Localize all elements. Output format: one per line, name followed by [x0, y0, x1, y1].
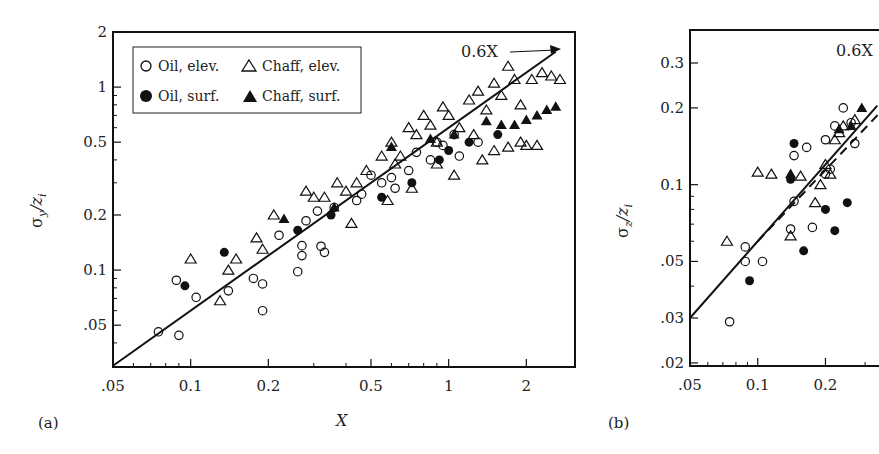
legend-label-chaff-surf: Chaff, surf. — [262, 88, 340, 104]
filled-circle-marker-icon — [220, 248, 229, 257]
filled-circle-marker-icon — [444, 146, 453, 155]
open-triangle-marker-icon — [515, 137, 526, 146]
filled-circle-marker-icon — [843, 198, 852, 207]
open-triangle-marker-icon — [425, 120, 436, 129]
filled-triangle-marker-icon — [550, 101, 561, 111]
panel-a-label: (a) — [38, 414, 59, 432]
open-circle-marker-icon — [405, 166, 413, 174]
open-triangle-marker-icon — [766, 169, 777, 178]
filled-triangle-marker-icon — [278, 214, 289, 224]
open-triangle-marker-icon — [215, 296, 226, 305]
open-triangle-marker-icon — [418, 110, 429, 119]
open-circle-marker-icon — [391, 184, 399, 192]
open-triangle-marker-icon — [251, 233, 262, 242]
open-triangle-marker-icon — [496, 90, 507, 99]
open-circle-marker-icon — [302, 217, 310, 225]
y-tick-label: 2 — [97, 23, 107, 41]
filled-circle-marker-icon — [745, 276, 754, 285]
open-triangle-marker-icon — [351, 178, 362, 187]
open-triangle-marker-icon — [301, 186, 312, 195]
open-triangle-marker-icon — [785, 231, 796, 240]
filled-triangle-marker-icon — [834, 124, 845, 134]
filled-triangle-marker-icon — [856, 102, 867, 112]
open-circle-marker-icon — [298, 241, 306, 249]
x-tick-label: 0.2 — [814, 376, 838, 394]
open-triangle-marker-icon — [721, 236, 732, 245]
open-triangle-marker-icon — [810, 198, 821, 207]
y-tick-label: 0.2 — [83, 206, 107, 224]
filled-triangle-marker-icon — [785, 169, 796, 179]
open-circle-marker-icon — [172, 276, 180, 284]
open-circle-marker-icon — [258, 280, 266, 288]
open-triangle-marker-icon — [449, 170, 460, 179]
open-circle-marker-icon — [377, 179, 385, 187]
panel-b-plot-frame — [690, 30, 879, 366]
open-triangle-marker-icon — [795, 171, 806, 180]
open-triangle-marker-icon — [464, 95, 475, 104]
open-triangle-marker-icon — [319, 192, 330, 201]
panel-a-chart: .050.10.20.512.050.10.20.512 Oil, elev. … — [27, 23, 575, 432]
filled-triangle-marker-icon — [481, 116, 492, 126]
panel-b-ylabel: σz/zi — [613, 204, 635, 238]
y-tick-label: .02 — [660, 354, 684, 372]
panel-b-label: (b) — [608, 414, 629, 432]
x-tick-label: 0.1 — [179, 377, 203, 395]
open-triangle-marker-icon — [332, 178, 343, 187]
open-circle-marker-icon — [298, 251, 306, 259]
open-circle-marker-icon — [249, 274, 257, 282]
panel-a-line-annotation: 0.6X — [461, 42, 498, 61]
filled-circle-marker-icon — [830, 226, 839, 235]
filled-circle-marker-icon — [799, 246, 808, 255]
open-triangle-marker-icon — [532, 140, 543, 149]
open-circle-marker-icon — [387, 173, 395, 181]
y-tick-label: 0.1 — [660, 176, 684, 194]
open-triangle-marker-icon — [346, 218, 357, 227]
open-triangle-marker-icon — [376, 151, 387, 160]
open-triangle-marker-icon — [536, 68, 547, 77]
y-tick-label: 0.1 — [83, 261, 107, 279]
open-circle-marker-icon — [294, 267, 302, 275]
y-tick-label: .03 — [660, 309, 684, 327]
open-circle-marker-icon — [821, 136, 829, 144]
open-triangle-marker-icon — [340, 186, 351, 195]
open-triangle-marker-icon — [521, 140, 532, 149]
open-triangle-marker-icon — [489, 146, 500, 155]
filled-circle-marker-icon — [180, 281, 189, 290]
open-triangle-marker-icon — [477, 155, 488, 164]
legend: Oil, elev. Oil, surf. Chaff, elev. Chaff… — [133, 47, 361, 113]
open-circle-marker-icon — [455, 152, 463, 160]
open-triangle-marker-icon — [489, 78, 500, 87]
y-tick-label: .05 — [83, 316, 107, 334]
x-tick-label: 1 — [444, 377, 454, 395]
open-triangle-marker-icon — [752, 167, 763, 176]
figure: .050.10.20.512.050.10.20.512 Oil, elev. … — [0, 0, 879, 454]
open-triangle-marker-icon — [468, 130, 479, 139]
open-circle-marker-icon — [839, 104, 847, 112]
x-tick-label: 0.2 — [256, 377, 280, 395]
open-circle-marker-icon — [258, 306, 266, 314]
filled-triangle-marker-icon — [541, 104, 552, 114]
open-triangle-marker-icon — [481, 105, 492, 114]
y-tick-label: 0.3 — [660, 54, 684, 72]
open-triangle-marker-icon — [403, 123, 414, 132]
open-triangle-marker-icon — [257, 244, 268, 253]
legend-label-chaff-elev: Chaff, elev. — [262, 58, 340, 74]
filled-triangle-marker-icon — [532, 110, 543, 120]
open-circle-marker-icon — [741, 257, 749, 265]
filled-triangle-marker-icon — [496, 120, 507, 130]
panel-b-line-annotation: 0.6X — [836, 41, 873, 60]
panel-a-xlabel: X — [334, 411, 348, 430]
open-triangle-marker-icon — [503, 61, 514, 70]
panel-b-data-points — [721, 102, 867, 326]
open-triangle-marker-icon — [223, 265, 234, 274]
open-circle-marker-icon — [790, 151, 798, 159]
open-circle-marker-icon — [758, 257, 766, 265]
open-triangle-marker-icon — [185, 254, 196, 263]
open-circle-marker-icon — [725, 318, 733, 326]
open-triangle-marker-icon — [503, 142, 514, 151]
x-tick-label: 0.5 — [359, 377, 383, 395]
x-tick-label: .05 — [678, 376, 702, 394]
open-triangle-marker-icon — [815, 180, 826, 189]
legend-label-oil-elev: Oil, elev. — [158, 58, 219, 74]
x-tick-label: 2 — [522, 377, 532, 395]
